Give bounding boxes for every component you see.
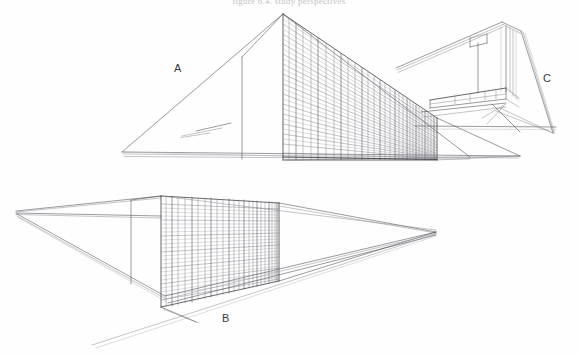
paper-surface: figure 6.4. study perspectives .l { fill…	[0, 0, 578, 356]
drawing-a-ground-marks	[181, 123, 231, 138]
drawing-a-spine	[242, 14, 283, 159]
drawing-b-spine	[131, 196, 161, 284]
drawing-label-b: B	[222, 312, 230, 324]
drawing-label-c: C	[543, 72, 551, 84]
drawing-a-facade-grid	[283, 18, 437, 160]
drawing-a-ground-plane	[122, 14, 520, 160]
drawing-label-a: A	[174, 62, 182, 74]
drawing-c-roof-detail	[470, 34, 487, 47]
drawing-c	[396, 22, 556, 134]
drawing-c-fins	[478, 26, 516, 99]
drawing-sheet: figure 6.4. study perspectives .l { fill…	[0, 0, 578, 356]
drawing-b-ground-bands	[92, 232, 436, 348]
drawing-b	[16, 196, 436, 348]
drawing-b-left-lines	[16, 196, 167, 302]
drawing-a	[122, 14, 520, 160]
line-drawings-canvas: .l { fill:none; stroke:#4a4a50; stroke-w…	[0, 0, 578, 356]
drawing-c-roof-plane	[396, 22, 555, 134]
drawing-c-podium	[430, 88, 519, 108]
